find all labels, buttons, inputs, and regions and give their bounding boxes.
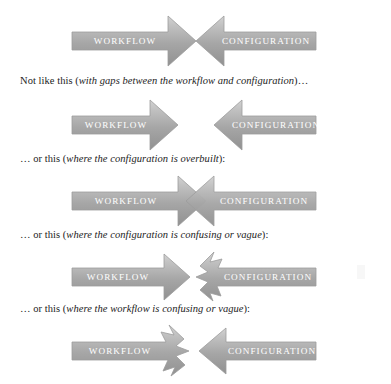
diagram-arrows-with-gap: WORKFLOW CONFIGURATION: [0, 96, 391, 154]
workflow-label: WORKFLOW: [85, 120, 148, 130]
caption-emphasis: where the workflow is confusing or vague: [66, 303, 243, 314]
caption-trail: ):: [219, 153, 226, 164]
paper-artifact: [357, 265, 365, 279]
configuration-label: CONFIGURATION: [232, 120, 320, 130]
workflow-label: WORKFLOW: [95, 196, 158, 206]
caption-lead: … or this (: [20, 303, 66, 314]
caption-lead: Not like this (: [20, 75, 79, 86]
diagram-interlocking-arrows-ideal: WORKFLOW CONFIGURATION: [0, 12, 391, 70]
caption-gaps: Not like this (with gaps between the wor…: [20, 74, 308, 87]
diagram-arrows-vague-configuration: WORKFLOW CONFIGURATION: [0, 248, 391, 306]
caption-vague-configuration: … or this (where the configuration is co…: [20, 228, 268, 241]
caption-lead: … or this (: [20, 229, 66, 240]
workflow-label: WORKFLOW: [94, 36, 157, 46]
configuration-label: CONFIGURATION: [228, 346, 316, 356]
configuration-label: CONFIGURATION: [224, 272, 312, 282]
configuration-label: CONFIGURATION: [222, 36, 310, 46]
workflow-label: WORKFLOW: [89, 346, 152, 356]
diagram-arrows-overlapping-overbuilt: WORKFLOW CONFIGURATION: [0, 172, 391, 230]
caption-emphasis: where the configuration is overbuilt: [66, 153, 218, 164]
caption-trail: ):: [262, 229, 269, 240]
caption-trail: )…: [294, 75, 308, 86]
caption-vague-workflow: … or this (where the workflow is confusi…: [20, 302, 250, 315]
illustration-page: WORKFLOW CONFIGURATION Not like this (wi…: [0, 0, 391, 384]
caption-trail: ):: [244, 303, 251, 314]
configuration-label: CONFIGURATION: [220, 196, 308, 206]
caption-emphasis: with gaps between the workflow and confi…: [79, 75, 294, 86]
workflow-label: WORKFLOW: [87, 272, 150, 282]
caption-emphasis: where the configuration is confusing or …: [66, 229, 262, 240]
diagram-arrows-vague-workflow: WORKFLOW CONFIGURATION: [0, 322, 391, 380]
caption-overbuilt: … or this (where the configuration is ov…: [20, 152, 225, 165]
caption-lead: … or this (: [20, 153, 66, 164]
